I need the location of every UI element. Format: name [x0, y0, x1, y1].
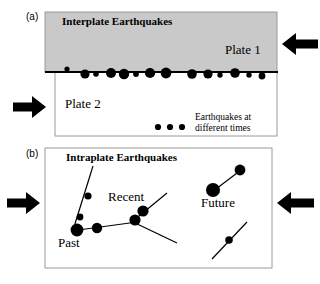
- recent-label: Recent: [108, 190, 144, 204]
- interface-earthquake-dot: [93, 71, 99, 77]
- interface-earthquake-dot: [203, 69, 212, 78]
- interface-earthquake-dot: [80, 69, 89, 78]
- legend-caption-line1: Earthquakes at: [195, 113, 251, 123]
- interface-earthquake-dot: [161, 68, 172, 79]
- interface-earthquake-dot: [64, 66, 69, 71]
- interface-earthquake-dot: [119, 69, 129, 79]
- panel-a-group: [13, 12, 318, 136]
- interface-earthquake-dot: [133, 71, 139, 77]
- interface-earthquake-dot: [217, 72, 222, 77]
- legend-earthquake-dot: [179, 124, 185, 130]
- intraplate-compression-arrow-right-icon: [277, 192, 314, 214]
- future-label: Future: [201, 196, 235, 210]
- past-upper-quake-2: [77, 214, 84, 221]
- diagram-canvas: [0, 0, 320, 284]
- plate2-label: Plate 2: [65, 97, 101, 111]
- panel-a-tag: (a): [26, 12, 38, 23]
- panel-a-heading: Interplate Earthquakes: [62, 16, 172, 28]
- earthquake-diagram-figure: (a) Interplate Earthquakes Plate 1 Plate…: [0, 0, 320, 284]
- interface-earthquake-dot: [106, 68, 116, 78]
- future-quake-small: [235, 165, 246, 176]
- plate2-motion-arrow-icon: [13, 96, 46, 118]
- plate1-motion-arrow-icon: [282, 33, 318, 55]
- legend-earthquake-dot: [155, 124, 161, 130]
- legend-caption-line2: different times: [195, 124, 251, 134]
- panel-b-heading: Intraplate Earthquakes: [66, 152, 177, 164]
- past-label: Past: [58, 236, 80, 250]
- intraplate-compression-arrow-left-icon: [7, 192, 40, 214]
- recent-quake-1: [129, 214, 140, 225]
- future-minor-quake: [225, 236, 233, 244]
- legend-earthquake-dots: [155, 124, 185, 130]
- interface-earthquake-dot: [187, 69, 197, 79]
- panel-b-tag: (b): [26, 149, 38, 160]
- recent-quake-2: [137, 205, 148, 216]
- interface-earthquake-dot: [145, 68, 155, 78]
- past-upper-quake-1: [84, 192, 91, 199]
- interface-earthquake-dot: [230, 68, 240, 78]
- interface-earthquake-dot: [246, 72, 251, 77]
- panel-b-group: [7, 148, 314, 268]
- interface-earthquake-dot: [259, 73, 266, 80]
- legend-earthquake-dot: [167, 124, 173, 130]
- plate1-label: Plate 1: [225, 43, 261, 57]
- past-quake-mid: [92, 223, 102, 233]
